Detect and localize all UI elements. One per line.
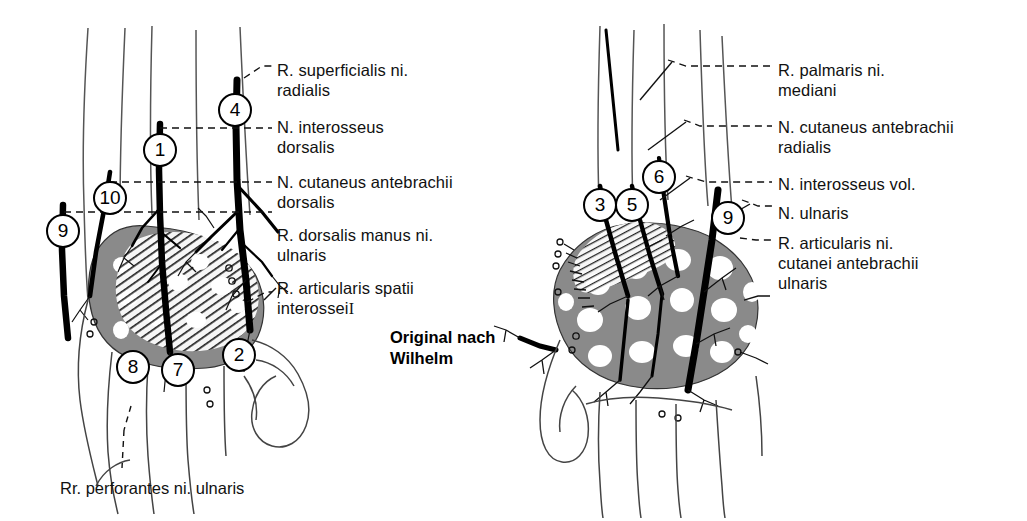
anatomy-figure-page: 4 1 10 9 8 7 2 3 5 6 9 R. superficialis … <box>0 0 1027 521</box>
label-r-articularis-spatii-interossei: R. articularis spatii interosseiI <box>277 278 414 319</box>
marker-5[interactable]: 5 <box>615 188 649 222</box>
label-n-ulnaris: N. ulnaris <box>778 203 849 223</box>
caption-rr-perforantes-ni-ulnaris: Rr. perforantes ni. ulnaris <box>60 478 244 498</box>
marker-label: 8 <box>128 356 139 378</box>
marker-label: 2 <box>234 344 245 366</box>
label-n-interosseus-dorsalis: N. interosseus dorsalis <box>277 117 384 157</box>
marker-9-right[interactable]: 9 <box>711 201 745 235</box>
left-hand-drawing <box>62 26 309 514</box>
label-r-palmaris-ni-mediani: R. palmaris ni. mediani <box>778 60 885 100</box>
marker-4[interactable]: 4 <box>218 93 252 127</box>
marker-label: 3 <box>595 194 606 216</box>
right-hand-drawing <box>494 24 772 518</box>
figure-credit: Original nach Wilhelm <box>390 327 495 369</box>
marker-label: 5 <box>627 194 638 216</box>
label-r-dorsalis-manus-ni-ulnaris: R. dorsalis manus ni. ulnaris <box>277 225 433 265</box>
marker-label: 7 <box>173 359 184 381</box>
marker-10[interactable]: 10 <box>93 181 127 215</box>
marker-3[interactable]: 3 <box>583 188 617 222</box>
marker-label: 9 <box>58 220 69 242</box>
marker-2[interactable]: 2 <box>222 338 256 372</box>
roman-numeral-one: I <box>349 300 354 317</box>
marker-label: 9 <box>723 207 734 229</box>
label-n-interosseus-vol: N. interosseus vol. <box>778 174 916 194</box>
label-n-cutaneus-antebrachii-dorsalis: N. cutaneus antebrachii dorsalis <box>277 172 453 212</box>
label-n-cutaneus-antebrachii-radialis: N. cutaneus antebrachii radialis <box>778 117 954 157</box>
label-r-articularis-ni-cutanei-antebrachii-ulnaris: R. articularis ni. cutanei antebrachii u… <box>778 233 918 293</box>
marker-9-left[interactable]: 9 <box>46 214 80 248</box>
marker-label: 4 <box>230 99 241 121</box>
label-r-superficialis-ni-radialis: R. superficialis ni. radialis <box>277 60 408 100</box>
marker-label: 6 <box>654 166 665 188</box>
marker-label: 1 <box>155 139 166 161</box>
marker-7[interactable]: 7 <box>161 353 195 387</box>
marker-label: 10 <box>99 187 120 209</box>
marker-1[interactable]: 1 <box>143 133 177 167</box>
label-text: R. articularis spatii interossei <box>277 279 414 317</box>
right-leader-solid <box>640 62 750 220</box>
marker-6[interactable]: 6 <box>642 160 676 194</box>
marker-8[interactable]: 8 <box>116 350 150 384</box>
